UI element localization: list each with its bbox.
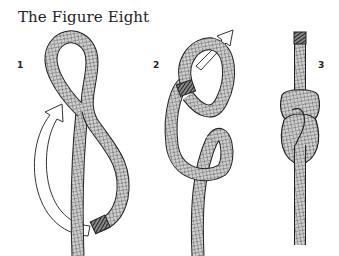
step-3-rope-end [294, 32, 306, 44]
figure-eight-diagram [0, 0, 339, 256]
step-3-rope [281, 32, 320, 245]
step-2-rope [171, 30, 233, 256]
step-1-rope [34, 37, 123, 256]
